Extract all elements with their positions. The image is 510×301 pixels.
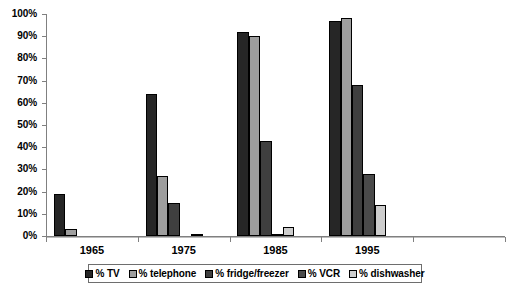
x-axis-label-1985: 1985 <box>230 244 322 256</box>
y-axis-label: 80% <box>17 53 37 63</box>
y-axis-label: 60% <box>17 98 37 108</box>
legend-label: % VCR <box>308 268 340 279</box>
x-axis-tick <box>413 237 414 242</box>
bar-tv-1995 <box>329 21 340 236</box>
legend-swatch-icon <box>85 270 93 278</box>
y-axis-label: 40% <box>17 142 37 152</box>
bar-vcr-1995 <box>363 174 374 236</box>
legend-label: % fridge/freezer <box>215 268 288 279</box>
bar-fridge-freezer-1995 <box>352 85 363 236</box>
bar-tv-1965 <box>54 194 65 236</box>
bar-tv-1985 <box>237 32 248 236</box>
x-axis-tick <box>321 237 322 242</box>
legend-swatch-icon <box>205 270 213 278</box>
y-axis-label: 90% <box>17 31 37 41</box>
legend-label: % TV <box>95 268 119 279</box>
legend-item: % VCR <box>298 268 340 279</box>
x-axis-label-1975: 1975 <box>138 244 230 256</box>
x-axis-tick <box>505 237 506 242</box>
x-axis-tick <box>230 237 231 242</box>
legend-item: % telephone <box>129 268 197 279</box>
legend-swatch-icon <box>129 270 137 278</box>
bar-telephone-1975 <box>157 176 168 236</box>
y-axis-label: 20% <box>17 187 37 197</box>
x-axis-label-1995: 1995 <box>321 244 413 256</box>
bar-dishwasher-1985 <box>283 227 294 236</box>
bar-fridge-freezer-1975 <box>168 203 179 236</box>
bar-telephone-1995 <box>341 18 352 236</box>
y-axis-label: 10% <box>17 209 37 219</box>
bar-dishwasher-1995 <box>375 205 386 236</box>
legend-item: % fridge/freezer <box>205 268 288 279</box>
y-axis-label: 0% <box>23 231 37 241</box>
legend-item: % TV <box>85 268 119 279</box>
legend-swatch-icon <box>298 270 306 278</box>
bar-fridge-freezer-1985 <box>260 141 271 236</box>
legend-swatch-icon <box>349 270 357 278</box>
bar-vcr-1985 <box>272 234 283 236</box>
bar-chart: 0%10%20%30%40%50%60%70%80%90%100% 196519… <box>0 0 510 301</box>
y-axis-label: 100% <box>12 9 37 19</box>
chart-legend: % TV% telephone% fridge/freezer% VCR% di… <box>88 264 422 283</box>
y-axis-label: 30% <box>17 164 37 174</box>
x-axis-tick <box>138 237 139 242</box>
bar-telephone-1985 <box>249 36 260 236</box>
x-axis-tick <box>46 237 47 242</box>
legend-item: % dishwasher <box>349 268 425 279</box>
y-axis-label: 50% <box>17 120 37 130</box>
plot-area <box>46 14 505 236</box>
x-axis-line-shadow <box>46 237 505 238</box>
y-axis-label: 70% <box>17 76 37 86</box>
x-axis-label-1965: 1965 <box>46 244 138 256</box>
bar-telephone-1965 <box>65 229 76 236</box>
bar-dishwasher-1975 <box>191 234 202 236</box>
bar-tv-1975 <box>146 94 157 236</box>
legend-label: % dishwasher <box>359 268 425 279</box>
legend-label: % telephone <box>139 268 197 279</box>
